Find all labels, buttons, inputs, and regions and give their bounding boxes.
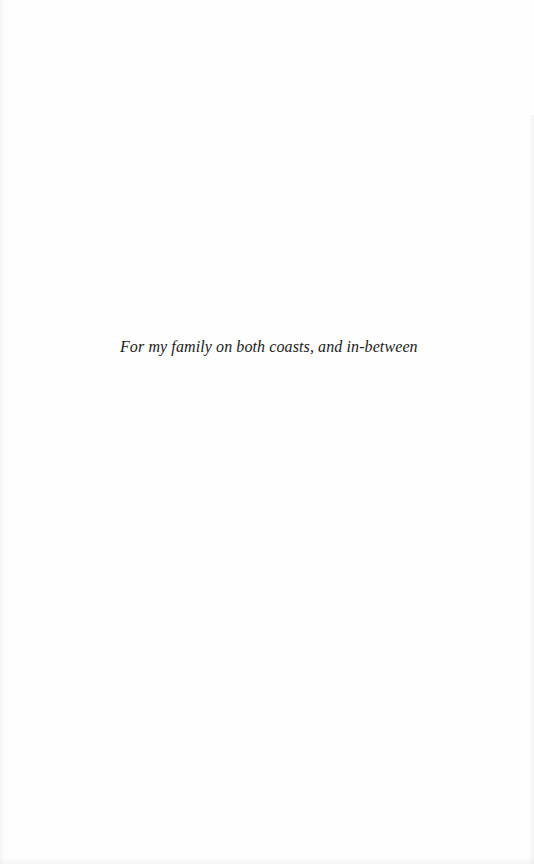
page-edge-right-shadow — [528, 115, 534, 864]
page-edge-left-shadow — [0, 0, 6, 864]
book-page: For my family on both coasts, and in-bet… — [0, 0, 534, 864]
page-edge-bottom-shadow — [0, 858, 534, 864]
dedication-text: For my family on both coasts, and in-bet… — [120, 337, 418, 357]
